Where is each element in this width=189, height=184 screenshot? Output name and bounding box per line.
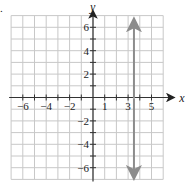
x-tick-label: −6 [17,100,29,112]
item-bullet: . [0,2,3,14]
y-tick-label: 6 [84,21,90,33]
y-tick-label: −4 [77,138,89,150]
y-tick-label: −6 [77,162,89,174]
coordinate-plane: xy −6−4−2135642−2−4−6 . [0,0,189,184]
x-tick-label: 5 [149,100,155,112]
x-tick-label: 1 [102,100,108,112]
y-tick-label: 4 [84,45,90,57]
y-axis-label: y [89,0,96,14]
x-tick-label: 3 [125,100,131,112]
y-tick-label: 2 [84,68,90,80]
x-tick-label: −4 [40,100,52,112]
y-tick-label: −2 [77,115,89,127]
x-tick-label: −2 [64,100,76,112]
x-axis-label: x [178,91,185,105]
